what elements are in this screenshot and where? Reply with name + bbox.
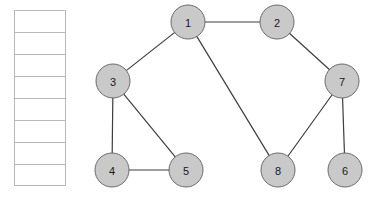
graph-edge-7-6: [343, 97, 345, 154]
graph-node-layer: 12374586: [95, 5, 362, 187]
graph-diagram: 12374586: [0, 0, 383, 198]
graph-node-7[interactable]: 7: [325, 64, 359, 98]
graph-edge-1-8: [196, 36, 269, 157]
graph-node-label: 4: [109, 165, 115, 177]
graph-edge-2-7: [289, 33, 330, 70]
graph-node-4[interactable]: 4: [95, 153, 129, 187]
graph-node-label: 2: [274, 17, 280, 29]
graph-node-2[interactable]: 2: [260, 5, 294, 39]
graph-node-6[interactable]: 6: [328, 153, 362, 187]
graph-node-1[interactable]: 1: [171, 5, 205, 39]
graph-node-label: 6: [342, 165, 348, 177]
graph-node-5[interactable]: 5: [169, 153, 203, 187]
graph-node-label: 7: [339, 76, 345, 88]
graph-node-label: 8: [275, 165, 281, 177]
graph-node-8[interactable]: 8: [261, 153, 295, 187]
graph-edge-3-4: [112, 97, 113, 154]
graph-node-label: 5: [183, 165, 189, 177]
graph-node-label: 3: [110, 76, 116, 88]
graph-edge-layer: [112, 22, 344, 170]
graph-edge-7-8: [287, 94, 332, 157]
graph-edge-1-3: [126, 32, 176, 71]
graph-node-3[interactable]: 3: [96, 64, 130, 98]
graph-node-label: 1: [185, 17, 191, 29]
graph-edge-3-5: [123, 93, 176, 157]
